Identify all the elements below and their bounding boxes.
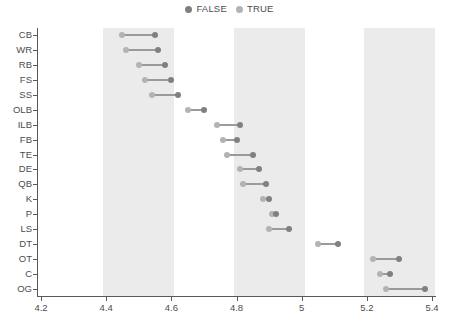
y-axis-label-de: DE [2, 164, 32, 174]
dumbbell-chart: FALSE TRUE CBWRRBFSSSOLBILBFBTEDEQBKPLSD… [0, 0, 459, 322]
data-point-true[interactable] [383, 286, 389, 292]
y-tick [33, 289, 37, 290]
y-axis-label-cb: CB [2, 30, 32, 40]
data-point-false[interactable] [286, 226, 292, 232]
legend-item-false[interactable]: FALSE [185, 4, 227, 14]
x-axis-label-4-8: 4.8 [217, 303, 257, 313]
x-axis-label-5-2: 5.2 [347, 303, 387, 313]
data-point-true[interactable] [220, 137, 226, 143]
data-point-false[interactable] [162, 62, 168, 68]
x-tick [432, 297, 433, 301]
x-axis-label-5-4: 5.4 [412, 303, 452, 313]
x-axis-label-4-4: 4.4 [86, 303, 126, 313]
connector-segment [227, 154, 253, 156]
y-axis-label-fb: FB [2, 135, 32, 145]
chart-legend: FALSE TRUE [0, 2, 459, 16]
y-axis-label-qb: QB [2, 179, 32, 189]
connector-segment [126, 49, 159, 51]
y-tick [33, 80, 37, 81]
y-axis-label-k: K [2, 194, 32, 204]
x-tick [367, 297, 368, 301]
y-axis-label-wr: WR [2, 45, 32, 55]
data-point-true[interactable] [315, 241, 321, 247]
x-tick [171, 297, 172, 301]
x-tick [106, 297, 107, 301]
connector-segment [139, 64, 165, 66]
y-axis-label-ot: OT [2, 254, 32, 264]
y-axis-label-olb: OLB [2, 105, 32, 115]
circle-marker-icon [236, 6, 243, 13]
y-tick [33, 50, 37, 51]
x-axis-label-5: 5 [282, 303, 322, 313]
y-tick [33, 244, 37, 245]
y-axis-label-ilb: ILB [2, 120, 32, 130]
data-point-false[interactable] [234, 137, 240, 143]
data-point-false[interactable] [387, 271, 393, 277]
y-axis-label-rb: RB [2, 60, 32, 70]
y-tick [33, 199, 37, 200]
y-tick [33, 169, 37, 170]
data-point-true[interactable] [185, 107, 191, 113]
x-tick [237, 297, 238, 301]
data-point-false[interactable] [273, 211, 279, 217]
data-point-true[interactable] [260, 196, 266, 202]
y-axis-label-dt: DT [2, 239, 32, 249]
data-point-true[interactable] [377, 271, 383, 277]
data-point-true[interactable] [214, 122, 220, 128]
y-axis-label-ss: SS [2, 90, 32, 100]
y-tick [33, 229, 37, 230]
y-axis-label-ls: LS [2, 224, 32, 234]
legend-item-true[interactable]: TRUE [236, 4, 274, 14]
data-point-false[interactable] [201, 107, 207, 113]
x-tick [302, 297, 303, 301]
x-axis-label-4-2: 4.2 [21, 303, 61, 313]
band-0 [103, 28, 174, 296]
data-point-false[interactable] [335, 241, 341, 247]
y-tick [33, 140, 37, 141]
y-axis-line [37, 28, 38, 297]
y-axis-label-p: P [2, 209, 32, 219]
legend-label-false: FALSE [196, 4, 227, 14]
y-axis-label-c: C [2, 269, 32, 279]
y-tick [33, 110, 37, 111]
connector-segment [386, 288, 425, 290]
data-point-false[interactable] [175, 92, 181, 98]
y-tick [33, 274, 37, 275]
y-tick [33, 155, 37, 156]
connector-segment [152, 94, 178, 96]
data-point-false[interactable] [250, 152, 256, 158]
data-point-true[interactable] [136, 62, 142, 68]
y-tick [33, 259, 37, 260]
circle-marker-icon [185, 6, 192, 13]
legend-label-true: TRUE [247, 4, 274, 14]
y-tick [33, 35, 37, 36]
band-1 [234, 28, 305, 296]
y-axis-label-fs: FS [2, 75, 32, 85]
y-tick [33, 95, 37, 96]
x-tick [41, 297, 42, 301]
data-point-false[interactable] [237, 122, 243, 128]
x-axis-label-4-6: 4.6 [151, 303, 191, 313]
y-tick [33, 125, 37, 126]
y-tick [33, 65, 37, 66]
plot-area [38, 28, 435, 296]
y-tick [33, 214, 37, 215]
y-axis-label-og: OG [2, 284, 32, 294]
connector-segment [122, 34, 155, 36]
y-axis-label-te: TE [2, 150, 32, 160]
data-point-true[interactable] [224, 152, 230, 158]
data-point-true[interactable] [149, 92, 155, 98]
y-tick [33, 184, 37, 185]
